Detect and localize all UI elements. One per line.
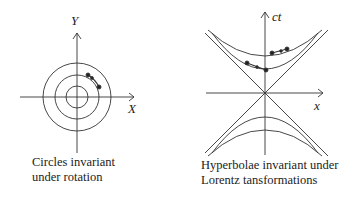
- left-caption-line2: under rotation: [32, 170, 102, 185]
- y-axis-label: Y: [71, 14, 78, 27]
- lorentz-diagram: [205, 12, 328, 156]
- x-axis-label-right: x: [314, 99, 320, 112]
- point-end: [97, 85, 101, 89]
- right-caption-line2: Lorentz tansformations: [201, 173, 317, 188]
- light-cone-1: [205, 33, 328, 156]
- x-axis-label: X: [128, 102, 136, 115]
- point-start: [86, 73, 90, 77]
- ct-axis-label: ct: [272, 10, 281, 23]
- right-caption-line1: Hyperbolae invariant under: [201, 158, 338, 173]
- light-cone-2: [205, 30, 328, 153]
- left-caption-line1: Circles invariant: [32, 155, 115, 170]
- arrow-head: [91, 77, 94, 80]
- rotation-diagram: [20, 33, 134, 153]
